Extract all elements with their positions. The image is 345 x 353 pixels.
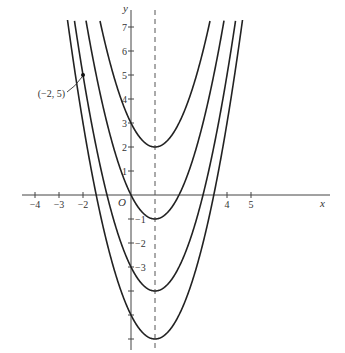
x-tick-label: −3 <box>54 199 65 210</box>
y-tick-label: 3 <box>122 118 127 129</box>
y-tick-label: 6 <box>122 46 127 57</box>
axes: xyO−4−3−2457654321−1−2−3 <box>22 2 330 350</box>
annotation-leader <box>67 77 82 92</box>
x-tick-label: −2 <box>78 199 89 210</box>
point-label: (−2, 5) <box>38 88 65 100</box>
y-tick-label: −2 <box>135 238 146 249</box>
y-tick-label: 7 <box>122 22 127 33</box>
y-tick-label: −1 <box>135 214 146 225</box>
y-tick-label: −3 <box>135 262 146 273</box>
y-axis-label: y <box>122 2 128 14</box>
y-tick-label: 2 <box>122 142 127 153</box>
parabola-family-plot: xyO−4−3−2457654321−1−2−3 (−2, 5) <box>0 0 345 353</box>
origin-label: O <box>118 196 126 208</box>
x-tick-label: 5 <box>249 199 254 210</box>
x-tick-label: 4 <box>225 199 230 210</box>
y-tick-label: 5 <box>122 70 127 81</box>
x-tick-label: −4 <box>30 199 41 210</box>
annotated-point <box>81 73 85 77</box>
x-axis-label: x <box>319 197 325 209</box>
